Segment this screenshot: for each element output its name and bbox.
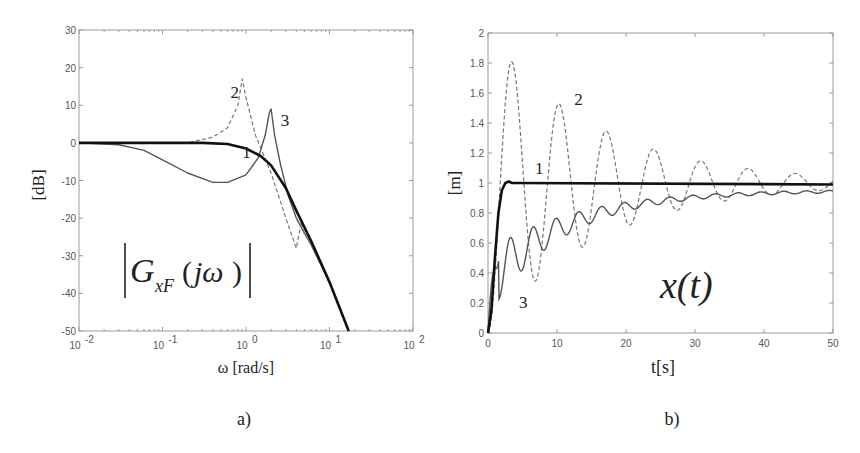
chart-a-ytick-label: 30 [65, 25, 77, 36]
chart-a-xlabel: ω [rad/s] [218, 359, 274, 376]
chart-a-xtick-label: 10 [153, 340, 165, 351]
svg-text:jω: jω [190, 255, 224, 288]
chart-b-xtick-label: 0 [485, 338, 491, 349]
svg-text:-2: -2 [85, 334, 94, 345]
chart-a-ytick-label: -30 [62, 251, 77, 262]
chart-a-annotation: G xF ( jω ) [125, 243, 250, 298]
chart-a-curves [79, 79, 349, 331]
chart-a-label-2: 2 [230, 83, 239, 102]
chart-b-annotation: x(t) [659, 264, 713, 307]
chart-a-ylabel: [dB] [29, 169, 48, 200]
chart-a-bode-magnitude: 3020100-10-20-30-40-5010-210-1100101102 … [29, 25, 425, 430]
chart-a-ytick-label: 10 [65, 100, 77, 111]
svg-text:): ) [232, 255, 242, 289]
chart-b-xtick-label: 40 [758, 338, 770, 349]
svg-text:G: G [130, 252, 155, 289]
svg-text:-1: -1 [169, 334, 178, 345]
chart-a-panel-label: a) [237, 409, 251, 430]
chart-b-ytick-label: 1.2 [470, 148, 484, 159]
chart-a-ytick-label: 0 [70, 138, 76, 149]
chart-a-ytick-label: -10 [62, 176, 77, 187]
chart-b-panel-label: b) [665, 409, 680, 430]
chart-a-label-1: 1 [242, 143, 251, 162]
chart-a-xtick-label: 10 [320, 340, 332, 351]
chart-b-xlabel: t[s] [651, 357, 675, 377]
chart-b-ylabel: [m] [445, 171, 464, 196]
chart-b-xtick-label: 30 [689, 338, 701, 349]
chart-b-xtick-label: 50 [827, 338, 839, 349]
chart-a-curve-1 [79, 143, 349, 331]
chart-a-curve-labels: 123 [230, 83, 289, 162]
chart-a-ticks: 3020100-10-20-30-40-5010-210-1100101102 [62, 25, 425, 351]
chart-a-xtick-label: 10 [69, 340, 81, 351]
chart-a-xtick-label: 10 [403, 340, 415, 351]
chart-b-ytick-label: 1.4 [470, 118, 484, 129]
chart-b-ytick-label: 0.8 [470, 208, 484, 219]
chart-b-xtick-label: 20 [620, 338, 632, 349]
chart-a-ytick-label: -20 [62, 213, 77, 224]
chart-b-ytick-label: 0.6 [470, 238, 484, 249]
chart-b-label-1: 1 [535, 159, 544, 178]
svg-text:2: 2 [419, 334, 425, 345]
svg-text:xF: xF [154, 276, 175, 296]
chart-b-ytick-label: 1.6 [470, 88, 484, 99]
chart-b-label-2: 2 [574, 90, 583, 109]
chart-a-label-3: 3 [281, 111, 290, 130]
chart-a-ytick-label: -40 [62, 288, 77, 299]
figure-canvas: 3020100-10-20-30-40-5010-210-1100101102 … [0, 0, 860, 453]
chart-a-curve-2 [79, 79, 349, 331]
chart-b-xtick-label: 10 [551, 338, 563, 349]
chart-b-time-response: 00.20.40.60.811.21.41.61.8201020304050 1… [445, 28, 839, 430]
chart-a-ytick-label: -50 [62, 326, 77, 337]
chart-b-ytick-label: 1.8 [470, 58, 484, 69]
chart-a-ytick-label: 20 [65, 63, 77, 74]
chart-b-ytick-label: 0.2 [470, 298, 484, 309]
svg-text:0: 0 [252, 334, 258, 345]
svg-text:1: 1 [336, 334, 342, 345]
chart-b-ytick-label: 0.4 [470, 268, 484, 279]
chart-b-ytick-label: 0 [478, 328, 484, 339]
chart-a-xtick-label: 10 [236, 340, 248, 351]
chart-b-ytick-label: 1 [478, 178, 484, 189]
svg-text:(: ( [182, 255, 192, 289]
chart-b-ytick-label: 2 [478, 28, 484, 39]
chart-b-label-3: 3 [519, 293, 528, 312]
